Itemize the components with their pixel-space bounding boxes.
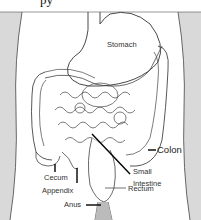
digestive-system-diagram: py bbox=[0, 0, 201, 220]
label-stomach: Stomach bbox=[107, 41, 137, 49]
label-appendix: Appendix bbox=[42, 187, 73, 195]
label-cecum: Cecum bbox=[44, 174, 68, 182]
label-colon: Colon bbox=[157, 145, 182, 155]
label-small: Small bbox=[133, 168, 152, 176]
anatomy-illustration bbox=[0, 0, 201, 220]
label-rectum: Rectum bbox=[128, 185, 154, 193]
label-anus: Anus bbox=[64, 201, 81, 209]
